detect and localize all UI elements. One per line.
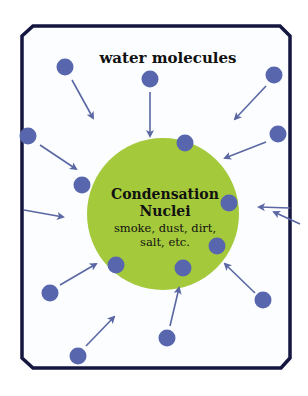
water-molecule	[20, 128, 37, 145]
water-molecule	[70, 348, 87, 365]
nucleus-subtitle-line1: smoke, dust, dirt,	[114, 221, 216, 235]
water-molecule	[209, 238, 226, 255]
water-molecule	[142, 71, 159, 88]
water-molecule	[255, 292, 272, 309]
water-molecule	[42, 285, 59, 302]
condensation-nuclei-diagram: water molecules Condensation Nuclei smok…	[0, 0, 308, 396]
water-molecule	[57, 59, 74, 76]
arrow-icon	[259, 207, 290, 208]
water-molecule	[74, 177, 91, 194]
water-molecule	[266, 67, 283, 84]
water-molecule	[221, 195, 238, 212]
nucleus-title-line2: Nuclei	[139, 203, 190, 219]
nucleus-subtitle-line2: salt, etc.	[140, 235, 190, 249]
nucleus-title-line1: Condensation	[111, 186, 219, 202]
water-molecule	[108, 257, 125, 274]
diagram-title: water molecules	[98, 49, 236, 67]
water-molecule	[270, 126, 287, 143]
water-molecule	[177, 135, 194, 152]
water-molecule	[159, 330, 176, 347]
water-molecule	[175, 260, 192, 277]
